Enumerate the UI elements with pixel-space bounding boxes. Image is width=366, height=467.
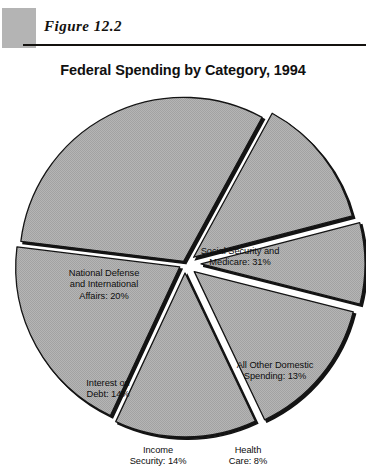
pie-slice-label-all-other-domestic: All Other Domestic Spending: 13% bbox=[214, 360, 336, 383]
pie-slice-label-national-defense: National Defense and International Affai… bbox=[40, 268, 168, 302]
pie-slice-label-social-security: Social Security and Medicare: 31% bbox=[176, 246, 304, 269]
chart-title: Federal Spending by Category, 1994 bbox=[0, 62, 366, 78]
figure-header: Figure 12.2 bbox=[0, 0, 366, 52]
figure-divider-rule bbox=[23, 44, 366, 46]
pie-slice-label-health-care: Health Care: 8% bbox=[206, 445, 290, 467]
pie-chart: Social Security and Medicare: 31%All Oth… bbox=[0, 88, 366, 440]
pie-slice-label-income-security: Income Security: 14% bbox=[106, 445, 210, 467]
figure-label: Figure 12.2 bbox=[44, 18, 122, 35]
pie-slice-label-interest-on-debt: Interest on Debt: 14% bbox=[56, 378, 160, 401]
figure-swatch bbox=[2, 8, 36, 48]
